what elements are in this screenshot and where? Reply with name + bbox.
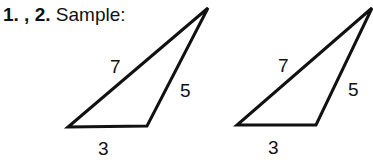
triangle-2: 7 5 3: [237, 8, 372, 158]
side-label-5: 5: [180, 80, 191, 101]
side-label-3: 3: [268, 137, 279, 158]
triangles-figure: 7 5 3 7 5 3: [0, 0, 373, 162]
triangle-1: 7 5 3: [68, 8, 208, 159]
side-label-7: 7: [278, 55, 289, 76]
side-label-5: 5: [348, 79, 359, 100]
side-label-3: 3: [98, 138, 109, 159]
side-label-7: 7: [110, 56, 121, 77]
